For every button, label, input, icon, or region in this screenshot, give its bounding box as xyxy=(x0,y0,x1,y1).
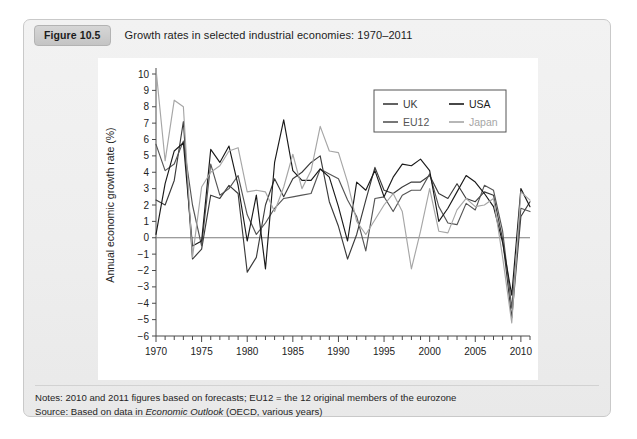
source-prefix: Source: xyxy=(35,406,71,417)
x-tick-label: 2000 xyxy=(419,346,442,357)
growth-rates-line-chart: −6−5−4−3−2−10123456789101970197519801985… xyxy=(98,58,538,380)
legend-label-usa: USA xyxy=(469,98,491,110)
figure-number-badge: Figure 10.5 xyxy=(34,25,111,46)
legend-label-japan: Japan xyxy=(469,116,498,128)
series-line-usa xyxy=(156,120,530,295)
x-tick-label: 1975 xyxy=(190,346,213,357)
y-tick-label: −2 xyxy=(138,265,150,276)
source-tail: (OECD, various years) xyxy=(223,406,322,417)
figure-title: Growth rates in selected industrial econ… xyxy=(125,29,413,41)
chart-legend: UKUSAEU12Japan xyxy=(374,90,506,132)
legend-label-uk: UK xyxy=(403,98,418,110)
y-tick-label: 3 xyxy=(143,183,149,194)
y-tick-label: 4 xyxy=(143,167,149,178)
figure-footer: Notes: 2010 and 2011 figures based on fo… xyxy=(35,385,599,419)
y-tick-label: 5 xyxy=(143,150,149,161)
y-axis-title: Annual economic growth rate (%) xyxy=(104,127,116,282)
y-tick-label: −1 xyxy=(138,249,150,260)
y-axis-title-text: Annual economic growth rate (%) xyxy=(104,127,116,282)
figure-card: Figure 10.5 Growth rates in selected ind… xyxy=(23,19,611,417)
x-tick-label: 1970 xyxy=(145,346,168,357)
x-tick-label: 2005 xyxy=(464,346,487,357)
notes-prefix: Notes: xyxy=(35,392,65,403)
y-tick-label: −5 xyxy=(138,314,150,325)
y-tick-label: 10 xyxy=(138,69,150,80)
legend-label-eu12: EU12 xyxy=(403,116,429,128)
x-tick-label: 1995 xyxy=(373,346,396,357)
chart-plot-area: −6−5−4−3−2−10123456789101970197519801985… xyxy=(98,58,538,380)
y-tick-label: 6 xyxy=(143,134,149,145)
y-tick-label: −3 xyxy=(138,281,150,292)
notes-text: 2010 and 2011 figures based on forecasts… xyxy=(65,392,456,403)
figure-notes: Notes: 2010 and 2011 figures based on fo… xyxy=(35,391,599,405)
figure-source: Source: Based on data in Economic Outloo… xyxy=(35,405,599,419)
source-publication: Economic Outlook xyxy=(145,406,223,417)
x-tick-label: 2010 xyxy=(510,346,533,357)
figure-header: Figure 10.5 Growth rates in selected ind… xyxy=(24,20,610,50)
source-lead: Based on data in xyxy=(71,406,146,417)
y-tick-label: 9 xyxy=(143,85,149,96)
y-tick-label: 8 xyxy=(143,101,149,112)
y-tick-label: −4 xyxy=(138,298,150,309)
y-tick-label: 1 xyxy=(143,216,149,227)
y-tick-label: 7 xyxy=(143,118,149,129)
x-tick-label: 1985 xyxy=(282,346,305,357)
x-tick-label: 1980 xyxy=(236,346,259,357)
y-tick-label: −6 xyxy=(138,331,150,342)
x-tick-label: 1990 xyxy=(327,346,350,357)
y-tick-label: 2 xyxy=(143,200,149,211)
y-tick-label: 0 xyxy=(143,232,149,243)
